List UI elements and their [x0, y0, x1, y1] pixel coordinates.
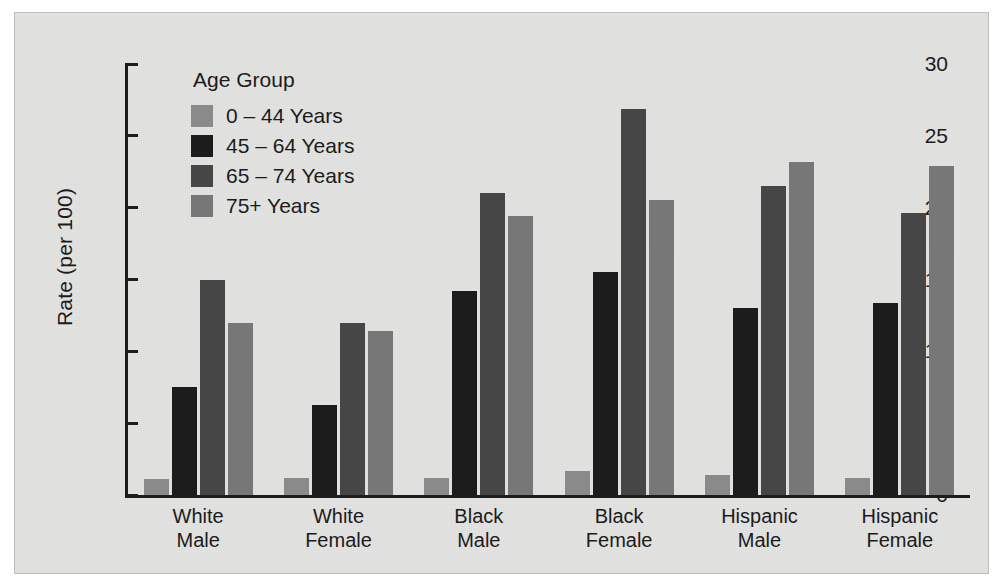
- y-axis-title: Rate (per 100): [53, 47, 77, 467]
- bar[interactable]: [901, 213, 926, 495]
- legend-title: Age Group: [193, 68, 354, 92]
- bar[interactable]: [593, 272, 618, 495]
- legend-swatch-icon: [191, 195, 213, 217]
- legend-item[interactable]: 45 – 64 Years: [191, 131, 354, 160]
- bar[interactable]: [480, 193, 505, 495]
- bar-group: [830, 64, 970, 495]
- bar[interactable]: [845, 478, 870, 495]
- x-category-label: BlackMale: [409, 505, 549, 552]
- x-axis-labels: WhiteMaleWhiteFemaleBlackMaleBlackFemale…: [128, 505, 970, 552]
- bar[interactable]: [368, 331, 393, 495]
- x-category-label: WhiteMale: [128, 505, 268, 552]
- x-category-label-line: Male: [128, 529, 268, 553]
- chart-figure: Rate (per 100) 051015202530 WhiteMaleWhi…: [0, 0, 1003, 586]
- bar-group: [409, 64, 549, 495]
- bar[interactable]: [452, 291, 477, 495]
- bar[interactable]: [200, 280, 225, 496]
- legend-items: 0 – 44 Years45 – 64 Years65 – 74 Years75…: [191, 101, 354, 220]
- x-axis-line: [125, 495, 970, 498]
- legend-swatch-icon: [191, 165, 213, 187]
- chart-plate: Rate (per 100) 051015202530 WhiteMaleWhi…: [14, 12, 989, 574]
- x-category-label: BlackFemale: [549, 505, 689, 552]
- legend: Age Group 0 – 44 Years45 – 64 Years65 – …: [191, 68, 354, 221]
- bar[interactable]: [929, 166, 954, 495]
- bar[interactable]: [705, 475, 730, 495]
- bar-group: [549, 64, 689, 495]
- bar[interactable]: [340, 323, 365, 495]
- legend-label: 45 – 64 Years: [226, 134, 354, 158]
- bar[interactable]: [873, 303, 898, 496]
- legend-label: 65 – 74 Years: [226, 164, 354, 188]
- x-category-label: WhiteFemale: [268, 505, 408, 552]
- x-category-label-line: White: [128, 505, 268, 529]
- bar[interactable]: [284, 478, 309, 495]
- legend-swatch-icon: [191, 135, 213, 157]
- x-category-label-line: Male: [409, 529, 549, 553]
- x-category-label-line: Female: [549, 529, 689, 553]
- x-category-label: HispanicMale: [689, 505, 829, 552]
- x-category-label-line: Hispanic: [689, 505, 829, 529]
- x-category-label-line: White: [268, 505, 408, 529]
- legend-item[interactable]: 0 – 44 Years: [191, 101, 354, 130]
- bar[interactable]: [565, 471, 590, 495]
- bar[interactable]: [312, 405, 337, 496]
- x-category-label-line: Black: [549, 505, 689, 529]
- legend-item[interactable]: 65 – 74 Years: [191, 161, 354, 190]
- x-category-label-line: Female: [268, 529, 408, 553]
- x-category-label-line: Black: [409, 505, 549, 529]
- legend-label: 0 – 44 Years: [226, 104, 343, 128]
- legend-item[interactable]: 75+ Years: [191, 191, 354, 220]
- x-category-label-line: Hispanic: [830, 505, 970, 529]
- bar[interactable]: [172, 387, 197, 495]
- bar[interactable]: [508, 216, 533, 495]
- bar[interactable]: [621, 109, 646, 495]
- bar[interactable]: [649, 200, 674, 495]
- bar[interactable]: [761, 186, 786, 495]
- bar[interactable]: [424, 478, 449, 495]
- x-category-label-line: Female: [830, 529, 970, 553]
- bar-group: [689, 64, 829, 495]
- legend-label: 75+ Years: [226, 194, 320, 218]
- bar[interactable]: [144, 479, 169, 495]
- x-category-label-line: Male: [689, 529, 829, 553]
- bar[interactable]: [789, 162, 814, 495]
- bar[interactable]: [733, 308, 758, 495]
- x-category-label: HispanicFemale: [830, 505, 970, 552]
- bar[interactable]: [228, 323, 253, 495]
- legend-swatch-icon: [191, 105, 213, 127]
